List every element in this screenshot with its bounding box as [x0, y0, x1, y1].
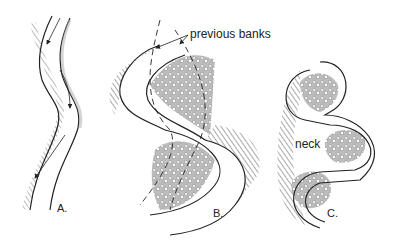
- neck-annotation: neck: [295, 137, 320, 151]
- label-panel-c: C.: [327, 207, 338, 219]
- label-panel-a: A.: [57, 202, 67, 214]
- previous-banks-annotation: previous banks: [190, 27, 271, 41]
- panel-a: [22, 16, 81, 210]
- panel-b: [110, 20, 260, 235]
- panel-c: [277, 62, 374, 228]
- label-panel-b: B.: [213, 207, 223, 219]
